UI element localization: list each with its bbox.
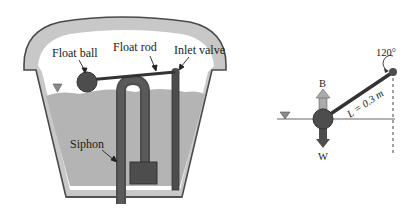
label-siphon: Siphon — [70, 137, 104, 151]
diagram-canvas: Float ball Float rod Inlet valve Siphon — [0, 0, 417, 213]
weight-arrow — [316, 128, 330, 148]
label-float-rod: Float rod — [113, 40, 157, 54]
water-level-icon — [280, 112, 290, 119]
pivot — [389, 68, 397, 76]
label-float-ball: Float ball — [52, 46, 98, 60]
angle-label: 120° — [376, 47, 396, 58]
buoyancy-arrow — [316, 89, 330, 109]
label-inlet-valve: Inlet valve — [174, 43, 225, 57]
float-ball — [313, 109, 333, 129]
inlet-valve-pipe — [172, 72, 179, 190]
free-body-diagram: 120° L = 0.3 m B W — [277, 47, 397, 162]
weight-label: W — [318, 151, 328, 162]
flapper — [130, 162, 157, 184]
float-ball — [77, 72, 97, 92]
buoyancy-label: B — [319, 78, 326, 89]
